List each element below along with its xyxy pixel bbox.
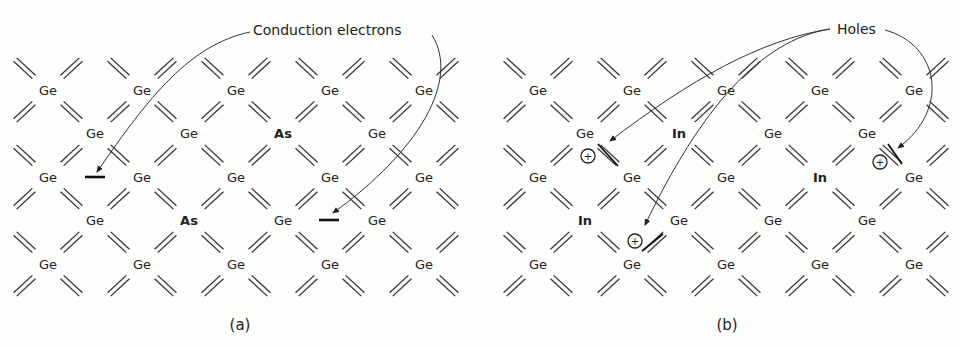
atom-ge: Ge: [905, 257, 923, 272]
atom-ge: Ge: [227, 257, 245, 272]
plus-icon: +: [584, 151, 592, 162]
atom-ge: Ge: [86, 126, 104, 141]
atom-ge: Ge: [905, 83, 923, 98]
atom-in: In: [672, 126, 686, 141]
atom-ge: Ge: [717, 257, 735, 272]
atom-ge: Ge: [133, 257, 151, 272]
atom-ge: Ge: [86, 213, 104, 228]
atom-ge: Ge: [764, 126, 782, 141]
atom-ge: Ge: [576, 126, 594, 141]
atom-ge: Ge: [811, 83, 829, 98]
atom-ge: Ge: [39, 257, 57, 272]
atom-as: As: [274, 126, 292, 141]
atom-ge: Ge: [529, 170, 547, 185]
atom-ge: Ge: [321, 257, 339, 272]
atom-ge: Ge: [858, 126, 876, 141]
electron-leader-line-2: [333, 35, 441, 213]
plus-icon: +: [631, 236, 639, 247]
atom-in: In: [578, 213, 592, 228]
caption-a: (a): [230, 316, 251, 334]
atom-ge: Ge: [368, 126, 386, 141]
caption-b: (b): [716, 316, 737, 334]
atom-ge: Ge: [39, 170, 57, 185]
atom-ge: Ge: [764, 213, 782, 228]
atom-ge: Ge: [905, 170, 923, 185]
atom-ge: Ge: [623, 83, 641, 98]
atom-ge: Ge: [227, 170, 245, 185]
atom-ge: Ge: [415, 170, 433, 185]
atom-in: In: [813, 170, 827, 185]
atom-ge: Ge: [623, 257, 641, 272]
atom-ge: Ge: [717, 170, 735, 185]
atom-ge: Ge: [321, 170, 339, 185]
doping-lattice-figure: GeGeGeGeGeGeGeAsGeGeGeGeGeGeGeAsGeGeGeGe…: [0, 0, 960, 349]
atom-as: As: [180, 213, 198, 228]
atom-ge: Ge: [133, 170, 151, 185]
atom-ge: Ge: [529, 83, 547, 98]
atom-ge: Ge: [529, 257, 547, 272]
atom-ge: Ge: [368, 213, 386, 228]
atom-ge: Ge: [321, 83, 339, 98]
conduction-electrons-label: Conduction electrons: [253, 22, 401, 38]
atom-ge: Ge: [39, 83, 57, 98]
atom-ge: Ge: [180, 126, 198, 141]
holes-label: Holes: [837, 21, 876, 37]
atom-ge: Ge: [670, 213, 688, 228]
atom-ge: Ge: [415, 83, 433, 98]
plus-icon: +: [876, 157, 884, 168]
atom-ge: Ge: [623, 170, 641, 185]
atom-ge: Ge: [415, 257, 433, 272]
atoms-panel-b: GeGeGeGeGeGeInGeGeGeGeGeInGeInGeGeGeGeGe…: [529, 83, 923, 272]
broken-bond: [598, 144, 618, 166]
atom-ge: Ge: [858, 213, 876, 228]
atom-ge: Ge: [811, 257, 829, 272]
atom-ge: Ge: [274, 213, 292, 228]
atom-ge: Ge: [133, 83, 151, 98]
atom-ge: Ge: [227, 83, 245, 98]
